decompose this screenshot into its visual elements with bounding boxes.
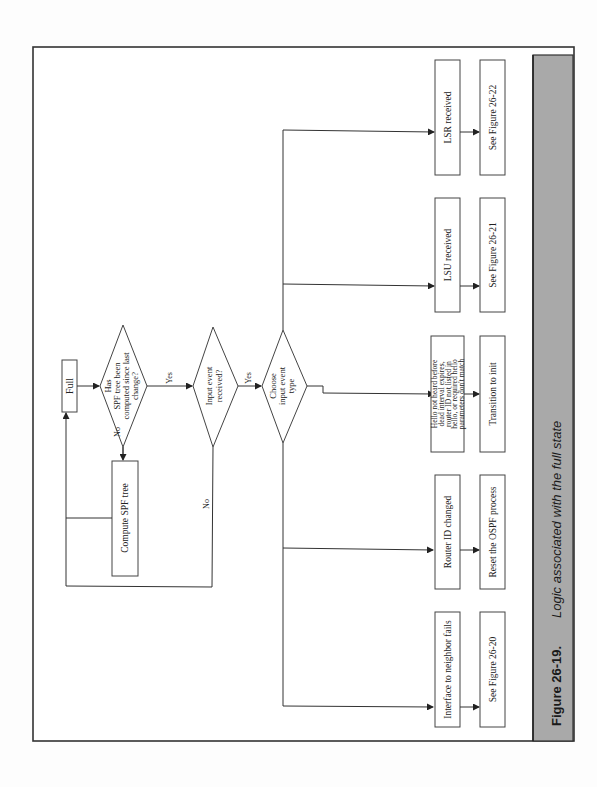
flowchart-figure: Figure 26-19. Logic associated with the … xyxy=(0,0,597,787)
interface-fails-event-text: Interface to neighbor fails xyxy=(443,620,453,719)
svg-text:received?: received? xyxy=(214,369,224,402)
router-id-changed-event-text: Router ID changed xyxy=(443,496,453,569)
svg-text:type: type xyxy=(286,378,296,393)
svg-text:change?: change? xyxy=(130,372,140,400)
event-text-line: Interface to neighbor fails xyxy=(443,620,453,719)
lsr-received-action-label: See Figure 26-22 xyxy=(488,85,498,151)
hello-failure-event-text: Hello not heard beforedead interval expi… xyxy=(430,359,465,430)
full-state-label: Full xyxy=(64,378,75,394)
event-text-line: LSU received xyxy=(443,229,453,282)
compute-spf-label: Compute SPF tree xyxy=(120,483,130,553)
interface-fails-action-label: See Figure 26-20 xyxy=(488,637,498,703)
router-id-changed-action-label: Reset the OSPF process xyxy=(488,486,498,577)
input-event-decision-text: Input event received? xyxy=(204,366,224,405)
label-spf-yes: Yes xyxy=(165,372,174,384)
label-spf-no: No xyxy=(113,427,122,437)
label-input-no: No xyxy=(202,499,211,509)
event-text-line: LSR received xyxy=(443,91,453,143)
lsr-received-event-text: LSR received xyxy=(443,91,453,143)
lsu-received-action-label: See Figure 26-21 xyxy=(488,222,498,288)
event-text-line: Router ID changed xyxy=(443,496,453,569)
figure-number: Figure 26-19. xyxy=(549,646,564,726)
svg-text:Input event: Input event xyxy=(204,366,214,405)
lsu-received-event-text: LSU received xyxy=(443,229,453,282)
hello-failure-action-label: Transition to init xyxy=(488,362,498,426)
label-input-yes: Yes xyxy=(244,372,253,384)
caption-bar xyxy=(533,55,573,741)
figure-caption: Logic associated with the full state xyxy=(549,421,564,618)
